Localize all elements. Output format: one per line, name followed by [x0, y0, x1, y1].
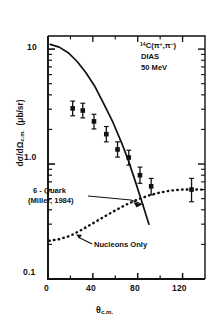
y-axis-numerator: dσ: [15, 156, 25, 167]
x-axis-title: θc.m.: [96, 305, 113, 315]
annotation-six-quark-line1: 6 - Quark: [33, 186, 66, 195]
y-axis-units: (μb/sr): [15, 99, 25, 125]
ytick-label-1: 1.0: [24, 152, 36, 162]
x-axis-subscript: c.m.: [101, 308, 113, 315]
annotation-nucleons-only: Nucleons Only: [94, 240, 147, 249]
y-axis-subscript: c.m.: [19, 130, 25, 141]
annotation-six-quark-line2: (Miller, 1984): [28, 196, 74, 205]
ytick-label-01: 0.1: [23, 267, 35, 277]
xtick-label-0: 0: [44, 283, 49, 293]
ytick-label-10: 10: [27, 42, 37, 52]
reaction-mid: ,π: [163, 41, 171, 50]
reaction-main: C(π: [146, 41, 160, 50]
annotation-reaction: 14C(π+,π−): [140, 41, 176, 51]
reaction-close: ): [174, 41, 177, 50]
xtick-label-120: 120: [172, 283, 187, 293]
xtick-label-40: 40: [86, 283, 96, 293]
annotation-dias: DIAS: [141, 52, 159, 61]
y-axis-denominator: dΩ: [15, 142, 25, 154]
annotation-energy: 50 MeV: [141, 63, 167, 72]
y-axis-title: dσ/dΩc.m. (μb/sr): [15, 63, 25, 203]
figure: 10 1.0 0.1 0 40 80 120 θc.m. dσ/dΩc.m. (…: [0, 0, 218, 330]
xtick-label-80: 80: [130, 283, 140, 293]
data-points: [70, 101, 194, 202]
annotation-leader-lines: [76, 196, 144, 244]
